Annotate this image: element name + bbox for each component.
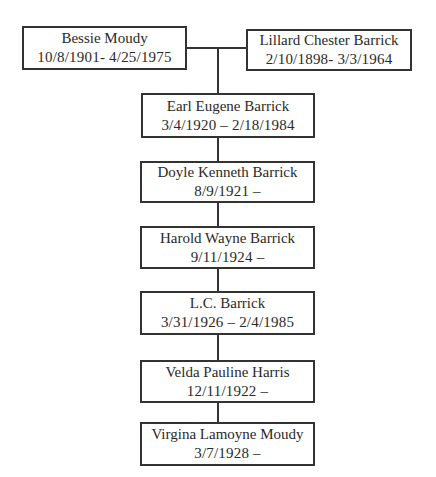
- person-dates: 2/10/1898- 3/3/1964: [266, 50, 393, 69]
- person-name: Virgina Lamoyne Moudy: [151, 425, 303, 444]
- child-connector-line: [217, 203, 219, 226]
- child-connector-line: [217, 138, 219, 161]
- person-name: Lillard Chester Barrick: [259, 31, 398, 50]
- person-name: Harold Wayne Barrick: [160, 229, 295, 248]
- child-connector-line: [217, 335, 219, 360]
- child-connector-line: [217, 403, 219, 422]
- person-dates: 12/11/1922 –: [187, 382, 268, 401]
- person-name: Velda Pauline Harris: [165, 363, 289, 382]
- person-dates: 8/9/1921 –: [194, 182, 261, 201]
- person-box-parent-father: Lillard Chester Barrick 2/10/1898- 3/3/1…: [246, 29, 412, 71]
- person-box-child: Doyle Kenneth Barrick 8/9/1921 –: [140, 161, 315, 203]
- person-name: Doyle Kenneth Barrick: [158, 163, 298, 182]
- person-name: L.C. Barrick: [190, 294, 265, 313]
- person-name: Bessie Moudy: [61, 29, 147, 48]
- person-box-child: Harold Wayne Barrick 9/11/1924 –: [140, 226, 315, 269]
- person-box-child: L.C. Barrick 3/31/1926 – 2/4/1985: [140, 291, 315, 335]
- person-box-child: Virgina Lamoyne Moudy 3/7/1928 –: [140, 422, 315, 466]
- person-dates: 3/4/1920 – 2/18/1984: [161, 116, 294, 135]
- person-box-parent-mother: Bessie Moudy 10/8/1901- 4/25/1975: [22, 26, 187, 70]
- person-box-child: Velda Pauline Harris 12/11/1922 –: [140, 360, 315, 403]
- person-name: Earl Eugene Barrick: [167, 97, 289, 116]
- descent-connector-line: [217, 47, 219, 93]
- person-dates: 9/11/1924 –: [191, 248, 265, 267]
- child-connector-line: [217, 269, 219, 291]
- person-dates: 3/7/1928 –: [194, 444, 261, 463]
- person-box-child: Earl Eugene Barrick 3/4/1920 – 2/18/1984: [141, 93, 315, 138]
- person-dates: 10/8/1901- 4/25/1975: [37, 48, 171, 67]
- person-dates: 3/31/1926 – 2/4/1985: [161, 313, 294, 332]
